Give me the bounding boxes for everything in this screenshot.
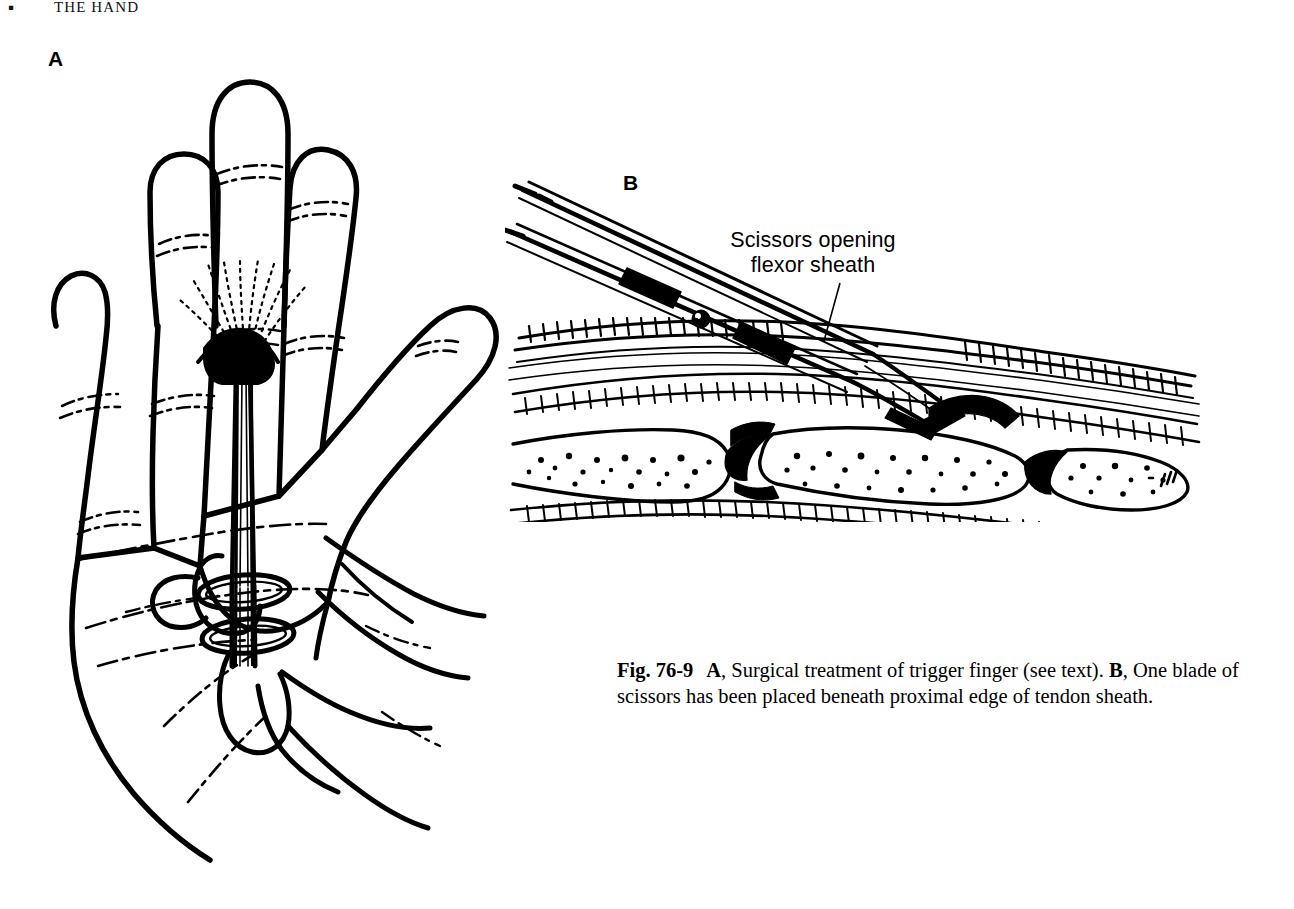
callout-label-scissors-opening-flexor-sheath: Scissors opening flexor sheath bbox=[713, 228, 913, 278]
figure-panel-a bbox=[26, 26, 526, 886]
callout-line-1: Scissors opening bbox=[730, 228, 895, 252]
caption-part-a-label: A bbox=[706, 659, 721, 681]
running-head: ▪ THE HAND bbox=[0, 0, 420, 14]
caption-part-a-text: , Surgical treatment of trigger finger (… bbox=[721, 659, 1109, 681]
panel-label-a: A bbox=[48, 47, 63, 71]
panel-label-b: B bbox=[623, 171, 638, 195]
hand-with-scissors-illustration bbox=[26, 26, 526, 886]
running-head-title: THE HAND bbox=[54, 1, 139, 14]
caption-figure-number: Fig. 76-9 bbox=[617, 659, 693, 681]
caption-part-b-label: B bbox=[1109, 659, 1123, 681]
figure-caption: Fig. 76-9A, Surgical treatment of trigge… bbox=[617, 657, 1269, 710]
callout-leader-line bbox=[800, 275, 860, 355]
page-folio: ▪ bbox=[8, 1, 14, 14]
figure-page: ▪ THE HAND bbox=[0, 0, 1294, 909]
